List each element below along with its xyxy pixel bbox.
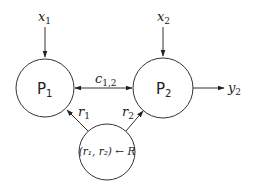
input-x1-subscript: 1 <box>45 16 51 26</box>
edge-r2: r2 <box>122 104 143 131</box>
node-p2-subscript: 2 <box>165 88 171 99</box>
output-y2: y2 <box>193 80 241 97</box>
input-x1: x1 <box>38 9 51 57</box>
node-r-label: (r₁, r₂) ← R <box>79 145 136 157</box>
edge-c12-subscript: 1,2 <box>102 78 116 88</box>
svg-text:x1: x1 <box>38 9 51 26</box>
protocol-diagram: x1 x2 P1 P2 c1,2 y2 (r₁, r₂) ← R r1 r2 <box>0 0 254 184</box>
svg-text:x2: x2 <box>157 9 170 26</box>
svg-text:c1,2: c1,2 <box>95 71 117 88</box>
edge-r1-subscript: 1 <box>84 111 90 121</box>
input-x2: x2 <box>157 9 170 56</box>
output-y2-subscript: 2 <box>235 87 241 97</box>
node-p2-label: P <box>156 80 165 98</box>
edge-r1: r1 <box>67 104 90 131</box>
node-r: (r₁, r₂) ← R <box>79 124 136 180</box>
svg-text:r2: r2 <box>122 104 134 121</box>
svg-text:y2: y2 <box>227 80 241 97</box>
edge-r2-subscript: 2 <box>128 111 134 121</box>
node-p1: P1 <box>16 59 74 117</box>
svg-text:r1: r1 <box>78 104 90 121</box>
node-p1-subscript: 1 <box>46 88 52 99</box>
node-p2: P2 <box>133 58 193 118</box>
edge-c12: c1,2 <box>75 71 132 88</box>
input-x2-subscript: 2 <box>164 16 170 26</box>
node-p1-label: P <box>37 80 46 98</box>
